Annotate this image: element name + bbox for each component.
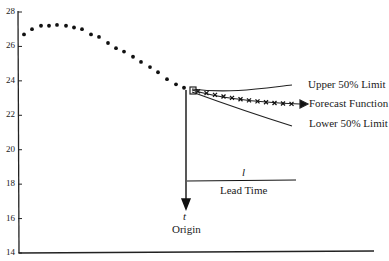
y-tick-label: 24 — [1, 76, 15, 85]
observed-dots — [22, 23, 186, 90]
observed-point — [131, 55, 135, 59]
forecast-chart — [0, 0, 389, 261]
observed-point — [89, 32, 93, 36]
origin-label: Origin — [172, 224, 201, 235]
forecast-arrowhead-icon — [300, 100, 308, 108]
observed-point — [22, 32, 26, 36]
x-axis — [19, 251, 374, 253]
lead-time-label: Lead Time — [220, 185, 267, 196]
axes — [18, 11, 374, 253]
y-tick-label: 14 — [1, 248, 15, 257]
observed-point — [106, 41, 110, 45]
observed-point — [80, 27, 84, 31]
observed-point — [97, 35, 101, 39]
y-tick-label: 26 — [1, 41, 15, 50]
observed-point — [182, 86, 186, 90]
upper-limit-label: Upper 50% Limit — [308, 79, 386, 90]
observed-point — [30, 27, 34, 31]
observed-point — [39, 24, 43, 28]
observed-point — [122, 50, 126, 54]
observed-point — [148, 65, 152, 69]
observed-point — [174, 82, 178, 86]
forecast-function-label: Forecast Function — [309, 98, 388, 109]
y-tick-label: 18 — [1, 179, 15, 188]
observed-point — [139, 60, 143, 64]
y-tick-label: 16 — [1, 214, 15, 223]
lead-time-line — [187, 180, 296, 181]
upper-limit-line — [192, 85, 292, 91]
origin-t-label: t — [183, 211, 186, 222]
observed-point — [156, 70, 160, 74]
observed-point — [64, 24, 68, 28]
origin-arrow-icon — [182, 199, 190, 209]
observed-point — [72, 26, 76, 30]
lead-time-symbol: l — [242, 167, 245, 178]
observed-point — [55, 23, 59, 27]
observed-point — [165, 77, 169, 81]
y-tick-label: 28 — [1, 7, 15, 16]
lower-limit-label: Lower 50% Limit — [309, 118, 388, 129]
observed-point — [114, 46, 118, 50]
y-axis — [18, 11, 19, 253]
y-tick-label: 20 — [1, 145, 15, 154]
y-tick-label: 22 — [1, 110, 15, 119]
observed-point — [47, 24, 51, 28]
